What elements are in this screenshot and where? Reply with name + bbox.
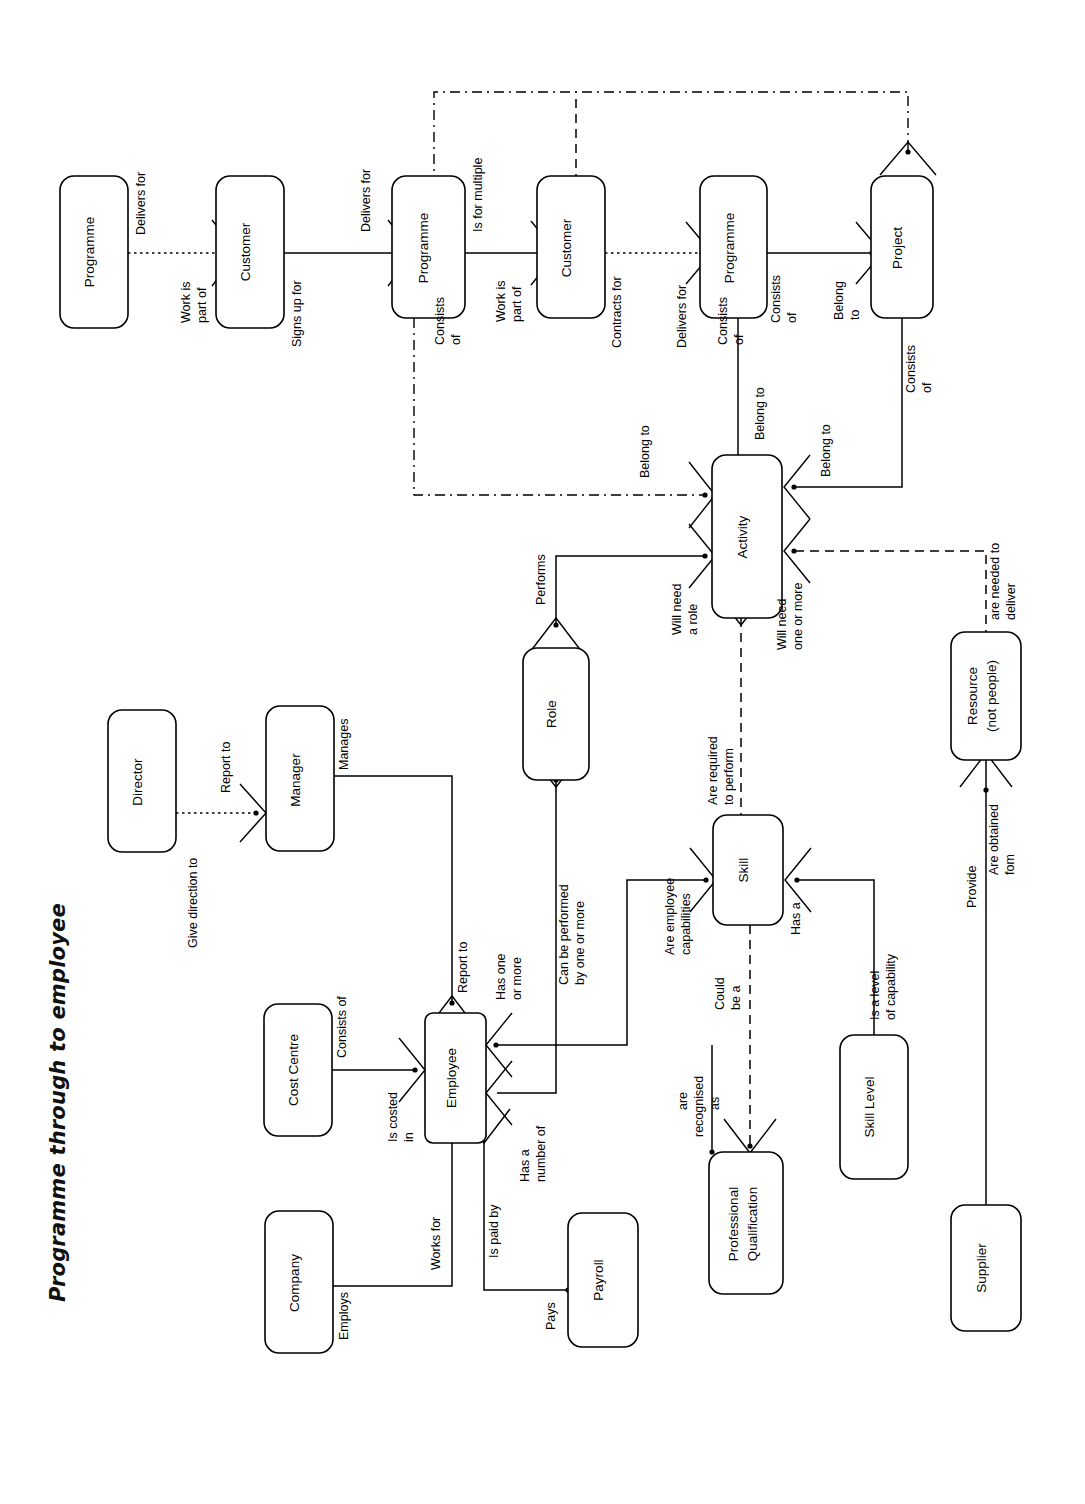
link-dot (709, 1149, 714, 1154)
rel-label-consists-of-proj-b: of (785, 312, 799, 323)
entity-programme-2[interactable]: Programme (392, 176, 465, 318)
rel-label-pays: Pays (544, 1302, 558, 1330)
entity-role[interactable]: Role (523, 648, 589, 780)
entity-label: Director (130, 758, 145, 806)
entity-label: Manager (288, 753, 303, 807)
rel-label-consists-of-prog3b: of (732, 334, 746, 345)
rel-label-consists-of-prog2b: of (449, 334, 463, 345)
rel-label-provide: Provide (965, 866, 979, 908)
rel-label-report-to-director: Report to (219, 742, 233, 793)
rel-label-will-need-one-or-more-a: Will need (775, 599, 789, 650)
entity-resource[interactable]: Resource (not people) (951, 632, 1021, 760)
rel-label-belong-to-left: Belong to (638, 425, 652, 478)
rel-label-are-required-to-perform-a: Are required (706, 736, 720, 805)
entity-company[interactable]: Company (265, 1211, 333, 1353)
rel-label-delivers-for-3: Delivers for (675, 285, 689, 348)
link-dot (794, 877, 799, 882)
rel-label-is-paid-by: Is paid by (487, 1204, 501, 1258)
rel-label-delivers-for-1: Delivers for (134, 172, 148, 235)
link-dot (983, 787, 988, 792)
rel-label-are-recognised-a: are (676, 1092, 690, 1110)
rel-label-report-to-manager: Report to (456, 942, 470, 993)
link-dot (905, 149, 910, 154)
rel-label-give-direction-to: Give direction to (186, 858, 200, 948)
rel-label-are-needed-to-deliver-b: deliver (1004, 583, 1018, 620)
entity-label: Programme (82, 217, 97, 288)
entity-project[interactable]: Project (871, 176, 933, 318)
entity-label-line1: Resource (965, 667, 980, 725)
rel-label-can-be-performed-b: by one or more (573, 901, 587, 985)
rel-label-work-is-part-of-1a: Work is (179, 282, 193, 323)
link-dot (703, 877, 708, 882)
rel-label-consists-of-proj2-b: of (920, 382, 934, 393)
entity-label: Customer (559, 218, 574, 277)
rel-label-are-needed-to-deliver-a: are needed to (988, 543, 1002, 620)
entity-customer-1[interactable]: Customer (216, 176, 284, 328)
rel-label-has-a: Has a (789, 902, 803, 935)
rel-label-is-costed-in-a: Is costed (386, 1092, 400, 1142)
rel-label-consists-of-prog3a: Consists (716, 297, 730, 345)
rel-label-consists-of-proj2-a: Consists (904, 345, 918, 393)
entity-cost-centre[interactable]: Cost Centre (264, 1004, 332, 1136)
link-dot (702, 492, 707, 497)
link-dot (553, 622, 558, 627)
entity-label: Payroll (591, 1259, 606, 1300)
entity-professional-qualification[interactable]: Professional Qualification (709, 1152, 783, 1294)
rel-label-will-need-a-role-b: a role (686, 604, 700, 635)
link-skill-skilllevel (796, 880, 874, 1035)
rel-label-are-recognised-b: recognised (692, 1076, 706, 1137)
rel-label-has-a-number-of-a: Has a (518, 1149, 532, 1182)
entity-programme-1[interactable]: Programme (60, 176, 128, 328)
rel-label-manages: Manages (337, 719, 351, 770)
link-dot (791, 548, 796, 553)
rel-label-belong-to-proj-b: to (848, 310, 862, 320)
rel-label-has-one-or-more-a: Has one (494, 953, 508, 1000)
entity-label: Skill Level (862, 1077, 877, 1138)
link-dot (412, 1067, 417, 1072)
rel-label-could-be-a-b: be a (729, 986, 743, 1010)
entity-director[interactable]: Director (108, 710, 176, 852)
entity-programme-3[interactable]: Programme (700, 176, 767, 318)
rel-label-contracts-for: Contracts for (610, 276, 624, 348)
entity-label: Activity (735, 515, 750, 558)
rel-label-is-a-level-b: of capability (884, 953, 898, 1020)
entity-skill[interactable]: Skill (713, 815, 783, 925)
entity-activity[interactable]: Activity (712, 455, 782, 618)
rel-label-consists-of-prog2a: Consists (433, 297, 447, 345)
rel-label-work-is-part-of-2a: Work is (494, 281, 508, 322)
entity-label: Cost Centre (286, 1034, 301, 1106)
rel-label-are-obtained-b: fom (1003, 854, 1017, 875)
entity-label: Employee (444, 1048, 459, 1108)
entity-supplier[interactable]: Supplier (951, 1205, 1021, 1331)
entity-label: Supplier (974, 1243, 989, 1293)
rel-label-performs: Performs (534, 554, 548, 605)
rel-label-will-need-a-role-a: Will need (670, 584, 684, 635)
rel-label-belong-to-top: Belong to (753, 387, 767, 440)
entity-label: Programme (416, 213, 431, 284)
rel-label-consists-of-cc: Consists of (335, 996, 349, 1058)
entity-label-line2: Qualification (745, 1187, 760, 1261)
link-dot (253, 810, 258, 815)
rel-label-delivers-for-2: Delivers for (359, 169, 373, 232)
rel-label-is-a-level-a: Is a level (868, 971, 882, 1020)
rel-label-are-employee-capabilities-a: Are employee (663, 878, 677, 955)
entity-label: Role (544, 700, 559, 728)
entity-manager[interactable]: Manager (266, 706, 334, 851)
link-dot (791, 484, 796, 489)
link-dot (747, 1143, 752, 1148)
entity-customer-2[interactable]: Customer (537, 176, 605, 318)
rel-label-has-a-number-of-b: number of (534, 1125, 548, 1182)
entity-label: Company (287, 1254, 302, 1312)
rel-label-works-for: Works for (429, 1217, 443, 1270)
rel-label-consists-of-proj-a: Consists (769, 275, 783, 323)
entity-payroll[interactable]: Payroll (568, 1213, 638, 1347)
diagram-canvas: Programme through to employee (0, 0, 1085, 1504)
entity-employee[interactable]: Employee (425, 1013, 486, 1143)
entity-skill-level[interactable]: Skill Level (840, 1035, 908, 1179)
rel-label-belong-to-proj-a: Belong (832, 281, 846, 320)
rel-label-employs: Employs (337, 1292, 351, 1340)
link-dot (493, 1042, 498, 1047)
link-manager-employee (334, 776, 452, 1003)
rel-label-is-costed-in-b: in (402, 1132, 416, 1142)
link-activity-resource (795, 551, 986, 632)
